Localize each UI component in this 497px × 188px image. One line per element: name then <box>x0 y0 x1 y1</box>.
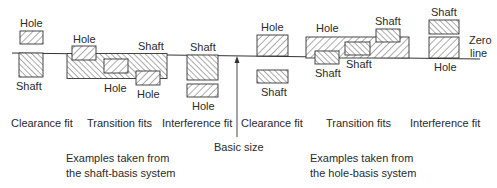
title-clearance-fit-hole-basis: Clearance fit <box>241 117 303 129</box>
hole-zone <box>257 35 288 56</box>
hole-label: Hole <box>192 100 215 112</box>
shaft-zone <box>429 20 459 34</box>
hole-zone <box>20 31 43 44</box>
shaft-zone-2 <box>345 42 370 55</box>
shaft-basis-clearance-fit: Hole Shaft <box>16 17 43 92</box>
title-transition-fits-shaft-basis: Transition fits <box>87 117 153 129</box>
shaft-basis-interference-fit: Shaft Hole <box>187 41 218 112</box>
shaft-zone-1 <box>315 51 339 64</box>
shaft-label-1: Shaft <box>315 67 341 79</box>
title-interference-fit-hole-basis: Interference fit <box>410 117 480 129</box>
caption-shaft-basis-line-1: Examples taken from <box>66 152 169 164</box>
hole-label: Hole <box>316 22 339 34</box>
basic-size-label: Basic size <box>214 141 264 153</box>
fits-diagram: Hole Shaft Shaft Hole Hole Hole Shaft Ho… <box>0 0 497 188</box>
caption-hole-basis-line-2: the hole-basis system <box>310 167 416 179</box>
hole-basis-clearance-fit: Hole Shaft <box>257 21 288 98</box>
title-transition-fits-hole-basis: Transition fits <box>326 117 392 129</box>
shaft-basis-transition-fits: Shaft Hole Hole Hole <box>67 33 167 100</box>
shaft-label: Shaft <box>138 40 164 52</box>
zero-line-label-1: Zero <box>469 34 492 46</box>
title-interference-fit-shaft-basis: Interference fit <box>162 117 232 129</box>
shaft-label: Shaft <box>431 6 457 18</box>
shaft-zone <box>257 70 288 83</box>
hole-zone-2 <box>104 59 128 73</box>
title-clearance-fit-shaft-basis: Clearance fit <box>11 117 73 129</box>
basic-size-indicator: Basic size <box>214 56 264 153</box>
shaft-label: Shaft <box>16 80 42 92</box>
hole-label-3: Hole <box>137 88 160 100</box>
hole-basis-interference-fit: Shaft Hole <box>429 6 459 73</box>
hole-zone <box>187 84 218 97</box>
shaft-label: Shaft <box>190 41 216 53</box>
shaft-label: Shaft <box>261 86 287 98</box>
caption-shaft-basis-line-2: the shaft-basis system <box>66 167 175 179</box>
shaft-label-3: Shaft <box>375 15 401 27</box>
hole-label-2: Hole <box>104 82 127 94</box>
hole-zone-1 <box>72 46 96 60</box>
hole-label: Hole <box>261 21 284 33</box>
hole-label: Hole <box>434 61 457 73</box>
hole-zone-3 <box>136 71 160 85</box>
hole-label: Hole <box>20 17 43 29</box>
hole-zone <box>429 37 459 58</box>
arrow-head-icon <box>235 56 240 63</box>
caption-hole-basis-line-1: Examples taken from <box>310 152 413 164</box>
zero-line-label-2: line <box>470 47 487 59</box>
shaft-zone <box>19 53 43 77</box>
shaft-label-2: Shaft <box>346 58 372 70</box>
shaft-zone-3 <box>376 29 400 42</box>
hole-label-1: Hole <box>73 33 96 45</box>
shaft-zone <box>187 55 218 80</box>
hole-basis-transition-fits: Hole Shaft Shaft Shaft <box>306 15 409 79</box>
